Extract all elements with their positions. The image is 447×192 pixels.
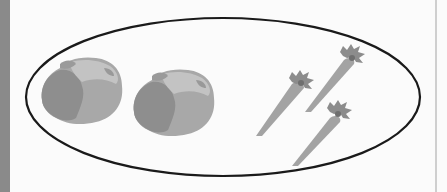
carrot-icon — [305, 44, 365, 112]
vegetable-set-illustration — [0, 0, 447, 192]
cabbage-icon — [134, 69, 215, 136]
carrot-icon — [292, 100, 352, 166]
carrot-icon — [256, 70, 314, 136]
cabbage-icon — [42, 57, 123, 124]
